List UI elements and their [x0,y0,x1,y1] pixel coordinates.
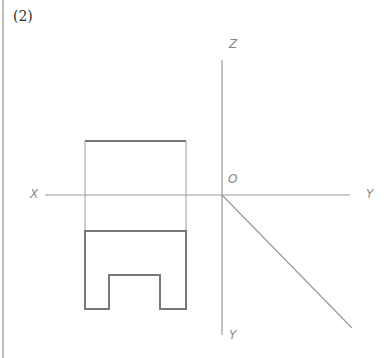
top-view-outline [85,231,186,309]
y-axis-bottom-label: Y [229,328,236,342]
origin-label: O [228,172,237,186]
diagonal-45-line [222,195,352,328]
problem-number: (2) [13,8,33,24]
projection-drawing [0,0,387,358]
y-axis-right-label: Y [366,187,373,201]
z-axis-label: Z [229,37,237,51]
x-axis-label: X [30,187,38,201]
